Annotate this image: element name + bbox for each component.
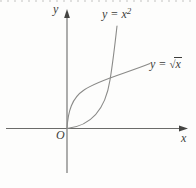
- curve-sqrt-label: y = √x: [150, 57, 182, 71]
- radicand: x: [174, 57, 181, 71]
- parabola-label-base: y = x: [102, 7, 127, 21]
- sqrt-label-prefix: y =: [150, 57, 169, 71]
- parabola-label-exponent: 2: [127, 6, 132, 16]
- x-axis-label: x: [181, 132, 186, 144]
- curve-sqrt: [67, 64, 150, 129]
- y-axis-label: y: [53, 3, 58, 15]
- curve-parabola-label: y = x2: [102, 8, 131, 20]
- origin-label: O: [56, 129, 65, 141]
- function-graph-figure: y x O y = x2 y = √x: [0, 0, 196, 188]
- curve-parabola: [67, 26, 117, 129]
- y-axis-arrowhead: [64, 9, 70, 18]
- axes-and-curves-canvas: [0, 0, 196, 188]
